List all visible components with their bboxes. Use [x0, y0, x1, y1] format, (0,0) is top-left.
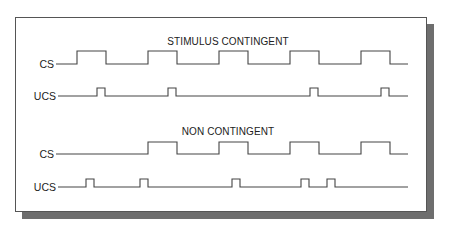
cs-waveform-non-contingent	[56, 142, 408, 154]
row-label-ucs-bottom: UCS	[34, 181, 56, 193]
ucs-waveform-non-contingent	[58, 179, 408, 187]
ucs-waveform-stimulus-contingent	[58, 88, 408, 96]
row-label-ucs-top: UCS	[34, 90, 56, 102]
diagram-stage: STIMULUS CONTINGENT CS UCS NON CONTINGEN…	[0, 0, 456, 228]
row-label-cs-bottom: CS	[39, 148, 54, 160]
section-title-non-contingent: NON CONTINGENT	[182, 126, 275, 137]
row-label-cs-top: CS	[39, 58, 54, 70]
cs-waveform-stimulus-contingent	[56, 51, 408, 64]
section-title-stimulus-contingent: STIMULUS CONTINGENT	[167, 36, 288, 47]
timing-diagram: STIMULUS CONTINGENT CS UCS NON CONTINGEN…	[0, 0, 456, 228]
